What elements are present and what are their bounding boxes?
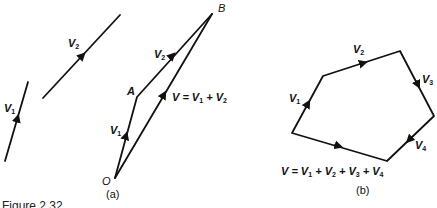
arrow-head-icon xyxy=(409,137,412,140)
arrow-head-icon xyxy=(360,63,364,64)
label-free-v2: V2 xyxy=(68,38,79,50)
label-free-v1: V1 xyxy=(4,103,15,115)
point-o: O xyxy=(102,176,111,187)
panel-label-b: (b) xyxy=(356,185,369,196)
arrow-head-icon xyxy=(125,136,126,140)
point-b: B xyxy=(218,3,225,14)
arrow-head-icon xyxy=(17,118,18,122)
figure-caption: Figure 2.32 xyxy=(2,199,63,208)
arrow-head-icon xyxy=(162,95,164,99)
label-triangle-v1: V1 xyxy=(110,125,121,137)
panel-label-a: (a) xyxy=(106,189,119,200)
polygon-vectors xyxy=(292,51,434,161)
arrow-head-icon xyxy=(306,104,308,108)
arrow-head-icon xyxy=(335,145,339,146)
label-poly-v1: V1 xyxy=(289,93,300,105)
label-poly-v2: V2 xyxy=(353,44,364,56)
arrow-head-icon xyxy=(416,81,418,85)
label-poly-v3: V3 xyxy=(422,74,433,86)
label-poly-v4: V4 xyxy=(415,140,426,152)
label-resultant-b: V = V1 + V2 + V3 + V4 xyxy=(281,166,383,178)
label-triangle-v2: V2 xyxy=(154,49,165,61)
label-resultant-a: V = V1 + V2 xyxy=(172,92,227,104)
arrow-head-icon xyxy=(80,56,83,59)
point-a: A xyxy=(127,86,135,97)
